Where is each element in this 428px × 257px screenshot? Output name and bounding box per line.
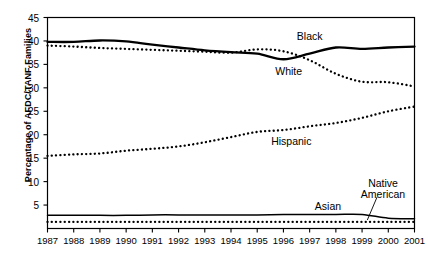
series-line-asian [48, 214, 415, 219]
series-label-hispanic: Hispanic [271, 136, 311, 147]
chart-container: Percentage of AFDC/TANF Families 5101520… [0, 0, 428, 257]
series-label-asian: Asian [315, 200, 341, 211]
series-label-black: Black [297, 31, 323, 42]
series-label-native-american: NativeAmerican [361, 178, 405, 200]
series-line-black [48, 40, 415, 59]
plot-area [0, 0, 428, 257]
series-label-white: White [275, 65, 302, 76]
series-line-hispanic [48, 107, 415, 156]
